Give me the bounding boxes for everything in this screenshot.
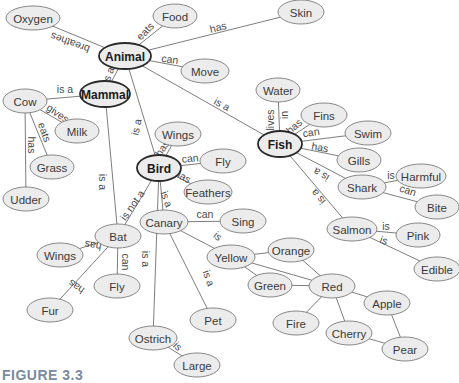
edge-label: is a [97,174,109,191]
edge-label: is a [308,187,328,207]
node-canary: Canary [140,210,188,234]
node-label: Wings [44,250,76,262]
node-green: Green [248,273,292,297]
node-animal: Animal [99,43,151,69]
node-label: Shark [347,182,377,194]
node-wings1: Wings [155,122,201,146]
node-label: Yellow [215,252,249,264]
node-oxygen: Oxygen [6,6,60,30]
node-label: Sing [231,216,254,228]
edge-label: can [197,208,214,220]
node-edible: Edible [414,257,459,281]
edge-label: is [387,169,395,181]
edge-label: lives [264,109,276,130]
edge-label: is a [57,83,74,95]
node-label: Bat [109,231,127,243]
node-label: Pet [204,315,222,327]
node-label: Feathers [185,187,231,199]
node-label: Gills [348,155,371,167]
node-fly2: Fly [94,274,140,298]
node-label: Fur [41,305,58,317]
node-feathers: Feathers [184,180,232,204]
node-label: Animal [105,50,145,64]
edge-label: has [208,19,227,35]
node-pear: Pear [382,337,428,361]
edge-label: has [66,277,87,297]
node-skin: Skin [278,0,324,24]
node-milk: Milk [55,119,99,143]
node-bite: Bite [415,195,459,219]
node-label: Fly [109,281,125,293]
node-label: Fly [215,156,231,168]
edge-label: can [181,151,199,164]
node-label: Milk [67,126,88,138]
node-shark: Shark [338,175,386,199]
node-large: Large [174,353,220,377]
node-label: Move [191,66,219,78]
edge-label: is [382,220,390,232]
node-label: Fire [286,318,306,330]
edge-bird-ostrich [153,168,159,338]
edge-label: has [311,140,330,155]
edge-label: is a [212,95,232,113]
node-grass: Grass [30,155,74,179]
node-food: Food [153,4,197,28]
node-layer: OxygenFoodSkinAnimalMoveMammalCowMilkGra… [3,0,459,377]
node-label: Wings [162,129,194,141]
node-label: Skin [290,7,312,19]
node-fly1: Fly [200,149,246,173]
node-salmon: Salmon [327,217,377,241]
node-label: Green [254,280,286,292]
edge-label: eats [134,20,157,43]
node-red: Red [309,274,355,298]
node-bat: Bat [95,224,141,248]
node-label: Bird [147,162,171,176]
node-harmful: Harmful [396,164,446,188]
node-label: Cow [13,96,37,108]
node-label: Harmful [401,171,441,183]
node-fish: Fish [258,131,302,157]
node-water: Water [256,78,300,102]
edge-label: is a [128,118,143,137]
node-label: Orange [272,245,310,257]
node-fur: Fur [27,298,73,322]
edge-label: is a [159,189,176,209]
edge-label: can [120,254,132,271]
node-label: Udder [10,194,41,206]
node-label: Food [162,11,188,23]
edge-mammal-bat [105,94,118,236]
node-label: Cherry [332,328,367,340]
edge-label: is a [140,251,152,268]
node-cherry: Cherry [326,321,372,345]
node-label: Ostrich [135,333,171,345]
node-fins: Fins [301,103,347,127]
node-label: Bite [427,202,447,214]
node-cow: Cow [3,89,47,113]
node-pink: Pink [396,223,440,247]
edge-label: can [161,52,180,66]
edge-label: in [278,111,290,119]
node-udder: Udder [3,187,49,211]
figure-caption: FIGURE 3.3 [2,367,83,383]
node-label: Swim [354,128,382,140]
node-swim: Swim [345,121,391,145]
node-label: Canary [145,217,182,229]
node-label: Oxygen [13,13,53,25]
edge-label: is a [201,268,218,288]
node-label: Fins [313,110,335,122]
node-label: Grass [37,162,68,174]
node-label: Red [321,281,342,293]
node-label: Mammal [81,88,129,102]
node-label: Pink [407,230,430,242]
node-pet: Pet [190,308,236,332]
node-label: Pear [393,344,417,356]
node-label: Large [182,360,211,372]
node-bird: Bird [137,155,181,181]
edge-cow-udder [25,101,26,199]
node-label: Edible [421,264,453,276]
node-fire: Fire [273,311,319,335]
edge-label: is [378,233,389,247]
edge-label: is a [311,166,331,185]
node-sing: Sing [220,209,266,233]
